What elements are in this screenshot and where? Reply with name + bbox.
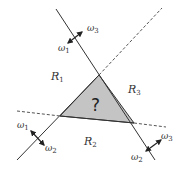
omega-label-left-a: ω1: [17, 121, 29, 132]
region-label-r1: R1: [51, 71, 64, 84]
omega-label-right-b: ω2: [131, 153, 143, 164]
omega-label-top-a: ω3: [87, 24, 99, 35]
region-label-r3: R3: [128, 84, 141, 97]
region-r1-sub: 1: [59, 76, 63, 84]
normal-arrow-right: [146, 140, 161, 151]
omega-label-left-b: ω2: [45, 144, 57, 155]
omega-sub: 2: [52, 147, 56, 155]
omega-sub: 1: [65, 47, 69, 55]
omega-sub: 1: [24, 124, 28, 132]
region-r3-sub: 3: [136, 89, 140, 97]
omega-sub: 2: [138, 156, 142, 164]
boundary-line-c-dashed-left: [17, 111, 60, 116]
omega-label-top-b: ω1: [58, 44, 70, 55]
region-label-r2: R2: [84, 136, 97, 149]
region-r2-sub: 2: [92, 141, 96, 149]
omega-sub: 3: [168, 135, 172, 143]
boundary-line-c-dashed-right: [134, 123, 166, 127]
omega-label-right-a: ω3: [161, 132, 173, 143]
boundary-line-b-dashed: [99, 8, 162, 75]
normal-arrow-top: [68, 32, 82, 43]
omega-sub: 3: [94, 27, 98, 35]
ambiguous-label: ?: [91, 97, 100, 114]
